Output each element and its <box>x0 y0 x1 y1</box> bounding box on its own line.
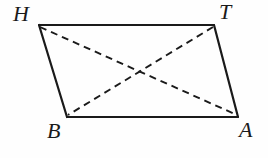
diagonal-HA <box>40 27 237 115</box>
side-BH <box>39 25 67 117</box>
parallelogram-diagonals <box>40 27 237 115</box>
geometry-figure: H T A B <box>0 0 268 158</box>
vertex-label-H: H <box>13 3 29 25</box>
diagonal-TB <box>68 27 213 115</box>
vertex-label-B: B <box>47 120 60 142</box>
vertex-label-T: T <box>219 1 231 23</box>
vertex-label-A: A <box>239 119 252 141</box>
parallelogram-sides <box>39 25 238 117</box>
side-TA <box>214 25 238 117</box>
